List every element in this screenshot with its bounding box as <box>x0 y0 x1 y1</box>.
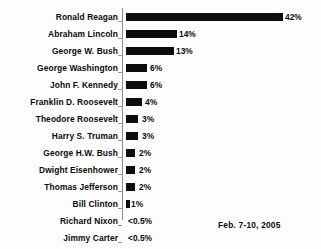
category-label: Franklin D. Roosevelt <box>0 94 118 111</box>
category-label: Theodore Roosevelt <box>0 111 118 128</box>
category-label: Harry S. Truman <box>0 128 118 145</box>
value-label: <0.5% <box>128 230 152 247</box>
value-label: <0.5% <box>128 213 152 230</box>
axis-tick <box>118 191 122 192</box>
axis-tick <box>118 242 122 243</box>
category-label: Dwight Eisenhower <box>0 162 118 179</box>
value-label: 2% <box>139 179 151 196</box>
axis-tick <box>118 21 122 22</box>
bar <box>126 183 135 191</box>
value-label: 13% <box>176 43 193 60</box>
axis-tick <box>118 106 122 107</box>
bar <box>126 166 135 174</box>
bar-chart: Ronald Reagan 42% Abraham Lincoln 14% Ge… <box>0 0 321 249</box>
bar <box>126 200 130 208</box>
survey-date-annotation: Feb. 7-10, 2005 <box>218 220 281 230</box>
bar <box>126 47 174 55</box>
category-label: George Washington <box>0 60 118 77</box>
axis-tick <box>118 140 122 141</box>
bar <box>126 13 283 21</box>
category-label: Jimmy Carter <box>0 230 118 247</box>
chart-row: John F. Kennedy 6% <box>0 77 321 94</box>
bar <box>126 64 147 72</box>
value-label: 6% <box>150 77 162 94</box>
value-label: 2% <box>139 145 151 162</box>
value-label: 3% <box>142 111 154 128</box>
value-label: 14% <box>179 26 196 43</box>
value-label: 4% <box>145 94 157 111</box>
axis-tick <box>118 208 122 209</box>
axis-tick <box>118 89 122 90</box>
category-label: George H.W. Bush <box>0 145 118 162</box>
category-label: Richard Nixon <box>0 213 118 230</box>
axis-tick <box>118 174 122 175</box>
category-label: George W. Bush <box>0 43 118 60</box>
chart-row: Thomas Jefferson 2% <box>0 179 321 196</box>
bar <box>126 81 147 89</box>
bar <box>126 115 138 123</box>
axis-tick <box>118 123 122 124</box>
bar <box>126 30 177 38</box>
category-label: Ronald Reagan <box>0 9 118 26</box>
axis-tick <box>118 72 122 73</box>
bar <box>126 98 142 106</box>
axis-tick <box>118 225 122 226</box>
chart-row: Abraham Lincoln 14% <box>0 26 321 43</box>
chart-row: Jimmy Carter <0.5% <box>0 230 321 247</box>
category-label: Bill Clinton <box>0 196 118 213</box>
value-label: 42% <box>285 9 302 26</box>
chart-row: George W. Bush 13% <box>0 43 321 60</box>
value-label: 1% <box>131 196 143 213</box>
chart-row: Harry S. Truman 3% <box>0 128 321 145</box>
value-label: 3% <box>142 128 154 145</box>
bar <box>126 149 135 157</box>
axis-tick <box>118 55 122 56</box>
category-label: Thomas Jefferson <box>0 179 118 196</box>
category-label: Abraham Lincoln <box>0 26 118 43</box>
chart-row: George Washington 6% <box>0 60 321 77</box>
bar <box>126 132 138 140</box>
chart-row: Bill Clinton 1% <box>0 196 321 213</box>
chart-row: George H.W. Bush 2% <box>0 145 321 162</box>
value-label: 6% <box>150 60 162 77</box>
chart-row: Dwight Eisenhower 2% <box>0 162 321 179</box>
value-label: 2% <box>139 162 151 179</box>
axis-tick <box>118 38 122 39</box>
chart-row: Ronald Reagan 42% <box>0 9 321 26</box>
chart-row: Franklin D. Roosevelt 4% <box>0 94 321 111</box>
chart-row: Theodore Roosevelt 3% <box>0 111 321 128</box>
axis-tick <box>118 157 122 158</box>
category-label: John F. Kennedy <box>0 77 118 94</box>
